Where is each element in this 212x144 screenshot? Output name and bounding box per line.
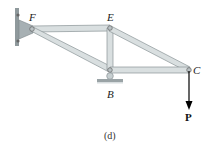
roller-support-icon — [97, 73, 123, 84]
pin-F — [30, 27, 35, 32]
member-EB — [107, 28, 113, 70]
member-FE — [32, 25, 110, 32]
pin-E — [108, 26, 113, 31]
truss-members — [31, 25, 190, 73]
truss-diagram: F E B C P (d) — [0, 0, 212, 144]
member-EC — [109, 26, 190, 72]
member-BC — [110, 67, 189, 73]
label-C: C — [193, 64, 201, 76]
label-B: B — [107, 88, 114, 100]
label-F: F — [28, 11, 36, 23]
load-arrow-icon — [186, 71, 193, 110]
label-P: P — [185, 111, 192, 123]
figure-caption: (d) — [104, 130, 116, 142]
member-FB — [31, 27, 112, 72]
pin-B — [108, 68, 113, 73]
label-E: E — [106, 11, 114, 23]
